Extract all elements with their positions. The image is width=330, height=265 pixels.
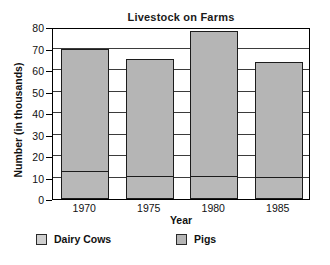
bar-segment-dairy-cows-1985[interactable] (255, 177, 303, 199)
x-tick-label-1970: 1970 (73, 202, 96, 214)
y-tick-mark-0 (46, 200, 52, 201)
legend-item-pigs[interactable]: Pigs (176, 233, 216, 245)
legend-item-dairy-cows[interactable]: Dairy Cows (36, 233, 111, 245)
bar-segment-pigs-1980[interactable] (190, 31, 238, 199)
bar-group-1980[interactable] (190, 27, 238, 199)
bar-group-1970[interactable] (61, 27, 109, 199)
livestock-bar-chart: Livestock on Farms Number (in thousands)… (0, 0, 330, 265)
bar-segment-dairy-cows-1970[interactable] (61, 171, 109, 199)
legend-swatch-dairy-cows-icon (36, 234, 47, 245)
x-tick-label-1985: 1985 (266, 202, 289, 214)
y-tick-label-80: 80 (20, 22, 44, 34)
legend-swatch-pigs-icon (176, 234, 187, 245)
x-tick-label-1980: 1980 (202, 202, 225, 214)
x-tick-label-1975: 1975 (137, 202, 160, 214)
y-tick-label-10: 10 (20, 173, 44, 185)
plot-inner (53, 29, 309, 199)
y-tick-label-40: 40 (20, 108, 44, 120)
legend-label-pigs: Pigs (194, 233, 216, 245)
bar-segment-dairy-cows-1975[interactable] (126, 176, 174, 199)
plot-area (52, 28, 310, 200)
bar-group-1975[interactable] (126, 27, 174, 199)
y-tick-label-70: 70 (20, 44, 44, 56)
chart-title: Livestock on Farms (52, 11, 310, 23)
y-tick-label-20: 20 (20, 151, 44, 163)
y-tick-label-50: 50 (20, 87, 44, 99)
x-axis-title: Year (52, 214, 310, 226)
bar-segment-dairy-cows-1980[interactable] (190, 176, 238, 199)
y-tick-label-60: 60 (20, 65, 44, 77)
y-tick-label-30: 30 (20, 130, 44, 142)
bar-group-1985[interactable] (255, 27, 303, 199)
chart-legend: Dairy Cows Pigs (36, 233, 286, 251)
y-tick-label-0: 0 (20, 194, 44, 206)
legend-label-dairy-cows: Dairy Cows (54, 233, 111, 245)
